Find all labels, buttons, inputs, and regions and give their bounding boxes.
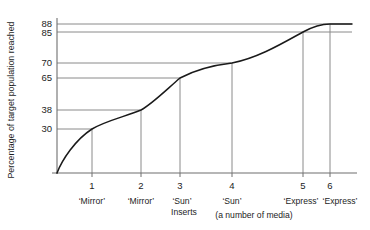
media-label-2: ‘Mirror’ [128,196,155,206]
xtick-label-1: 1 [89,180,94,191]
ytick-label-38: 38 [41,104,52,115]
ytick-label-85: 85 [41,27,52,38]
xtick-label-5: 5 [300,180,305,191]
ytick-label-30: 30 [41,123,52,134]
xtick-label-3: 3 [177,180,182,191]
data-curve [57,24,352,173]
media-label-3-line2: Inserts [171,207,197,217]
media-label-4: ‘Sun’ [222,196,241,206]
media-label-3: ‘Sun’ [172,196,191,206]
chart-figure: Percentage of target population reached … [0,0,370,230]
x-axis-title: (a number of media) [215,210,293,220]
xtick-label-2: 2 [138,180,143,191]
media-label-1: ‘Mirror’ [79,196,106,206]
media-label-6: ‘Express’ [323,196,358,206]
ytick-label-70: 70 [41,57,52,68]
y-axis-title: Percentage of target population reached [6,21,16,178]
media-label-5: ‘Express’ [284,196,319,206]
reach-curve-chart: Percentage of target population reached … [0,0,370,230]
xtick-label-4: 4 [229,180,234,191]
ytick-label-65: 65 [41,72,52,83]
xtick-label-6: 6 [327,180,332,191]
